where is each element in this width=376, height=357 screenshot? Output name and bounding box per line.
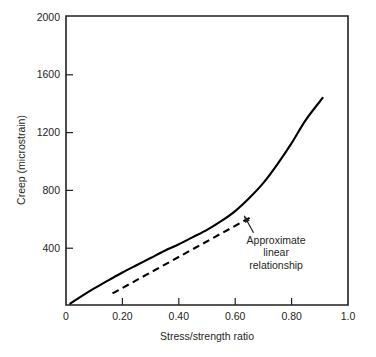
- x-tick-labels: 0 0.20 0.40 0.60 0.80 1.0: [63, 310, 355, 322]
- x-tick-label-0-20: 0.20: [112, 310, 133, 322]
- annotation-line-2: linear: [263, 246, 289, 258]
- y-tick-label-1200: 1200: [37, 126, 61, 138]
- x-tick-label-0: 0: [63, 310, 69, 322]
- y-tick-label-800: 800: [42, 184, 60, 196]
- y-tick-label-400: 400: [42, 242, 60, 254]
- creep-curve: [70, 98, 322, 304]
- plot-frame: [66, 16, 348, 305]
- y-axis-title: Creep (microstrain): [15, 115, 27, 205]
- x-tick-label-0-80: 0.80: [281, 310, 302, 322]
- approximate-linear-line: [113, 216, 254, 294]
- x-tick-label-1-0: 1.0: [341, 310, 356, 322]
- x-tick-label-0-60: 0.60: [225, 310, 246, 322]
- y-tick-labels: 2000 1600 1200 800 400: [37, 11, 61, 254]
- chart-figure: 2000 1600 1200 800 400 0 0.20 0.40 0.60 …: [0, 0, 376, 357]
- y-axis-ticks: [66, 75, 73, 248]
- annotation-line-3: relationship: [249, 259, 303, 271]
- x-axis-ticks: [122, 298, 291, 305]
- x-tick-label-0-40: 0.40: [169, 310, 190, 322]
- y-tick-label-2000: 2000: [37, 11, 61, 23]
- x-axis-title: Stress/strength ratio: [160, 330, 254, 342]
- annotation-text: Approximate linear relationship: [247, 234, 306, 271]
- y-tick-label-1600: 1600: [37, 68, 61, 80]
- creep-stress-chart: 2000 1600 1200 800 400 0 0.20 0.40 0.60 …: [0, 0, 376, 357]
- annotation-line-1: Approximate: [247, 234, 306, 246]
